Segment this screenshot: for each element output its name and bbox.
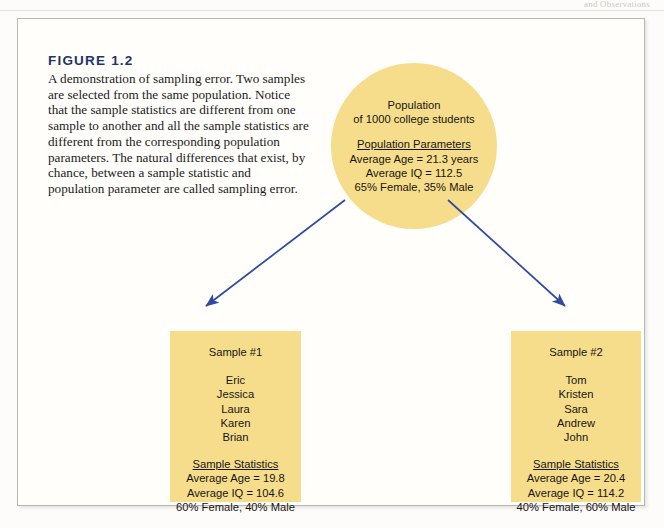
sample-2-statistic-iq: Average IQ = 114.2 (517, 486, 636, 500)
sample-2-statistic-gender: 40% Female, 60% Male (517, 500, 636, 514)
sample-2-statistics: Sample Statistics Average Age = 20.4 Ave… (517, 457, 636, 514)
population-parameters-heading: Population Parameters (357, 137, 471, 151)
sample-node-2: Sample #2 Tom Kristen Sara Andrew John S… (511, 331, 641, 502)
sample-2-statistic-age: Average Age = 20.4 (517, 471, 636, 485)
sample-1-name-1: Eric (217, 373, 254, 387)
sample-2-statistics-heading: Sample Statistics (517, 457, 636, 471)
sample-2-name-5: John (557, 430, 595, 444)
figure-caption-block: FIGURE 1.2 A demonstration of sampling e… (48, 53, 310, 197)
population-title-line-1: Population (388, 98, 441, 112)
population-parameter-gender: 65% Female, 35% Male (355, 180, 474, 194)
sample-1-statistic-gender: 60% Female, 40% Male (176, 500, 295, 514)
population-parameter-age: Average Age = 21.3 years (350, 152, 479, 166)
sample-2-name-3: Sara (557, 402, 595, 416)
sample-1-statistic-iq: Average IQ = 104.6 (176, 486, 295, 500)
figure-label: FIGURE 1.2 (48, 53, 310, 68)
sample-2-name-1: Tom (557, 373, 595, 387)
population-title-line-2: of 1000 college students (353, 112, 474, 126)
sample-1-title: Sample #1 (209, 345, 263, 359)
sample-2-title: Sample #2 (549, 345, 603, 359)
sample-1-statistics-heading: Sample Statistics (176, 457, 295, 471)
figure-caption-text: A demonstration of sampling error. Two s… (48, 71, 310, 197)
sample-2-name-2: Kristen (557, 387, 595, 401)
sample-1-name-3: Laura (217, 402, 254, 416)
sample-1-statistic-age: Average Age = 19.8 (176, 471, 295, 485)
sample-2-names: Tom Kristen Sara Andrew John (557, 373, 595, 444)
sample-1-names: Eric Jessica Laura Karen Brian (217, 373, 254, 444)
sample-2-name-4: Andrew (557, 416, 595, 430)
sample-1-name-2: Jessica (217, 387, 254, 401)
sample-1-name-5: Brian (217, 430, 254, 444)
population-node: Population of 1000 college students Popu… (331, 63, 497, 229)
figure-frame: FIGURE 1.2 A demonstration of sampling e… (17, 18, 645, 506)
sample-1-statistics: Sample Statistics Average Age = 19.8 Ave… (176, 457, 295, 514)
sample-1-name-4: Karen (217, 416, 254, 430)
running-head: and Observations (0, 0, 664, 9)
population-parameter-iq: Average IQ = 112.5 (366, 166, 462, 180)
header-rule (0, 10, 664, 11)
sample-node-1: Sample #1 Eric Jessica Laura Karen Brian… (170, 331, 301, 502)
